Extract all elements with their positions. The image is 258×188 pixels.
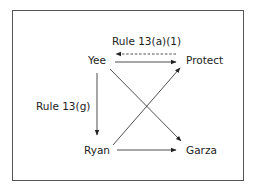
edges-layer [0,0,258,188]
edge-ryan-protect [113,68,180,145]
node-ryan: Ryan [84,144,110,156]
node-yee: Yee [88,54,106,66]
edge-yee-garza [110,69,181,141]
node-garza: Garza [186,144,217,156]
node-protect: Protect [186,54,223,66]
edge-label-rule-13a1: Rule 13(a)(1) [112,35,181,47]
edge-label-rule-13g: Rule 13(g) [36,100,90,112]
